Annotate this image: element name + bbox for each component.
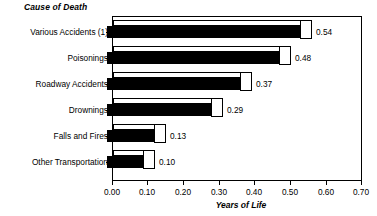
- x-tick-label-2: 0.20: [163, 187, 203, 197]
- x-tick-mark-4: [254, 181, 255, 185]
- value-label-5: 0.10: [159, 157, 175, 167]
- x-tick-label-3: 0.30: [199, 187, 239, 197]
- category-label-4: Falls and Fires: [0, 131, 108, 141]
- x-tick-mark-7: [361, 181, 362, 185]
- x-tick-label-1: 0.10: [127, 187, 167, 197]
- value-label-2: 0.37: [256, 79, 272, 89]
- value-label-1: 0.48: [295, 53, 311, 63]
- category-label-text: Other Transportation: [32, 157, 108, 167]
- y-axis-title: Cause of Death: [24, 2, 87, 12]
- x-tick-mark-1: [147, 181, 148, 185]
- x-tick-label-4: 0.40: [234, 187, 274, 197]
- x-tick-label-5: 0.50: [270, 187, 310, 197]
- category-label-3: Drownings: [0, 105, 108, 115]
- category-label-1: Poisonings: [0, 53, 108, 63]
- x-axis-title: Years of Life: [186, 200, 296, 210]
- x-tick-label-6: 0.60: [306, 187, 346, 197]
- category-label-text: Various Accidents (1): [30, 27, 108, 37]
- x-tick-mark-0: [112, 181, 113, 185]
- bar-chart: Cause of Death Various Accidents (1) Poi…: [0, 0, 377, 216]
- category-label-0: Various Accidents (1): [0, 27, 108, 37]
- x-tick-mark-5: [290, 181, 291, 185]
- value-label-3: 0.29: [227, 105, 243, 115]
- x-tick-mark-2: [183, 181, 184, 185]
- category-label-5: Other Transportation: [0, 157, 108, 167]
- category-label-text: Poisonings: [67, 53, 108, 63]
- x-tick-label-7: 0.70: [341, 187, 377, 197]
- value-label-0: 0.54: [316, 27, 332, 37]
- category-label-2: Roadway Accidents: [0, 79, 108, 89]
- value-label-4: 0.13: [170, 131, 186, 141]
- category-label-text: Drownings: [69, 105, 108, 115]
- x-tick-label-0: 0.00: [92, 187, 132, 197]
- x-tick-mark-3: [219, 181, 220, 185]
- category-label-text: Roadway Accidents: [36, 79, 108, 89]
- x-tick-mark-6: [326, 181, 327, 185]
- category-label-text: Falls and Fires: [54, 131, 108, 141]
